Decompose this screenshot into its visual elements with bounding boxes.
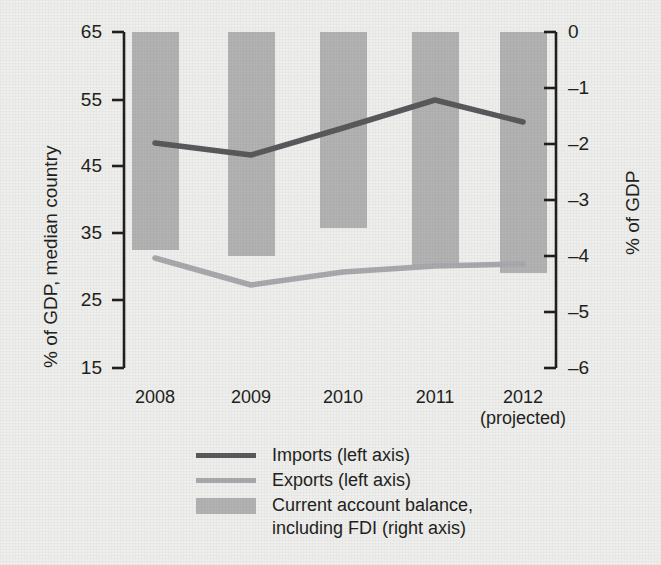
bar-2009 — [228, 32, 275, 256]
right-tick-label-minus6: –6 — [568, 358, 612, 377]
x-tick-label-2011: 2011 — [395, 387, 475, 408]
legend-item-current-account-balance: Current account balance, including FDI (… — [196, 494, 473, 540]
x-tick-label-2009: 2009 — [211, 387, 291, 408]
legend-item-imports: Imports (left axis) — [196, 444, 473, 467]
x-tick-sublabel-2012-projected: (projected) — [473, 408, 573, 429]
legend-line-swatch-imports — [196, 453, 256, 458]
right-tick-label-minus5: –5 — [568, 302, 612, 321]
left-axis-title: % of GDP, median country — [40, 146, 62, 368]
chart-figure: 65 55 45 35 25 15 0 –1 –2 –3 –4 –5 –6 20… — [0, 0, 661, 565]
legend-label-imports: Imports (left axis) — [264, 444, 410, 467]
left-tick-label-35: 35 — [62, 223, 102, 242]
x-tick-label-2012: 2012 — [483, 387, 563, 408]
right-axis-title: % of GDP — [622, 171, 644, 255]
right-tick-label-minus1: –1 — [568, 78, 612, 97]
x-tick-label-2010: 2010 — [303, 387, 383, 408]
left-axis — [112, 32, 124, 368]
legend-item-exports: Exports (left axis) — [196, 469, 473, 492]
legend-label-current-account-balance: Current account balance, including FDI (… — [264, 494, 473, 540]
left-tick-label-55: 55 — [62, 90, 102, 109]
legend-label-exports: Exports (left axis) — [264, 469, 411, 492]
chart-legend: Imports (left axis) Exports (left axis) … — [196, 444, 473, 542]
right-tick-label-minus2: –2 — [568, 134, 612, 153]
line-series-exports — [155, 258, 523, 285]
x-tick-label-2008: 2008 — [115, 387, 195, 408]
right-tick-label-minus4: –4 — [568, 246, 612, 265]
legend-swatch-cell-current-account-balance — [196, 494, 264, 514]
left-tick-label-45: 45 — [62, 156, 102, 175]
legend-swatch-cell-imports — [196, 444, 264, 458]
right-tick-label-0: 0 — [568, 22, 612, 41]
bar-2011 — [412, 32, 459, 267]
left-tick-label-15: 15 — [62, 358, 102, 377]
right-tick-label-minus3: –3 — [568, 190, 612, 209]
legend-swatch-cell-exports — [196, 469, 264, 483]
bar-series-current-account-balance — [132, 32, 547, 273]
legend-box-swatch-current-account-balance — [196, 498, 256, 514]
left-tick-label-25: 25 — [62, 290, 102, 309]
bar-2012 — [500, 32, 547, 273]
legend-line-swatch-exports — [196, 478, 256, 483]
left-tick-label-65: 65 — [62, 22, 102, 41]
